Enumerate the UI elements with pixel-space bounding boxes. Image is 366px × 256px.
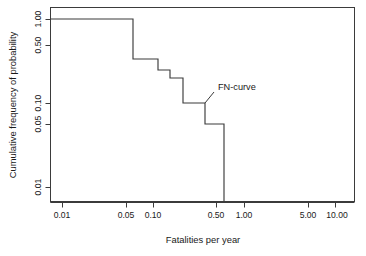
y-tick-label-3: 0.50 — [33, 36, 43, 53]
x-tick-label-2: 0.10 — [145, 210, 162, 220]
fn-curve-figure: 0.01 0.05 0.10 0.50 1.00 5.00 10.00 Fata… — [0, 0, 366, 256]
y-tick-label-2: 0.10 — [33, 94, 43, 111]
x-tick-label-6: 10.00 — [326, 210, 348, 220]
y-axis: 1.00 0.50 0.10 0.05 0.01 Cumulative freq… — [7, 8, 51, 203]
plot-frame — [51, 8, 355, 202]
x-axis-title: Fatalities per year — [166, 234, 241, 245]
y-tick-label-1: 0.05 — [33, 115, 43, 132]
y-tick-label-4: 1.00 — [33, 10, 43, 27]
x-tick-label-1: 0.05 — [118, 210, 135, 220]
annotation-leader-line — [205, 92, 214, 103]
fn-curve-annotation: FN-curve — [205, 82, 256, 103]
y-tick-label-0: 0.01 — [33, 178, 43, 195]
x-tick-label-3: 0.50 — [208, 210, 225, 220]
x-tick-label-4: 1.00 — [236, 210, 253, 220]
x-tick-label-0: 0.01 — [54, 210, 71, 220]
x-tick-label-5: 5.00 — [300, 210, 317, 220]
chart-svg: 0.01 0.05 0.10 0.50 1.00 5.00 10.00 Fata… — [0, 0, 366, 256]
fn-curve-path — [51, 19, 224, 202]
annotation-label-fn-curve: FN-curve — [218, 82, 256, 92]
x-axis: 0.01 0.05 0.10 0.50 1.00 5.00 10.00 Fata… — [51, 203, 355, 246]
y-axis-title: Cumulative frequency of probability — [7, 31, 18, 178]
